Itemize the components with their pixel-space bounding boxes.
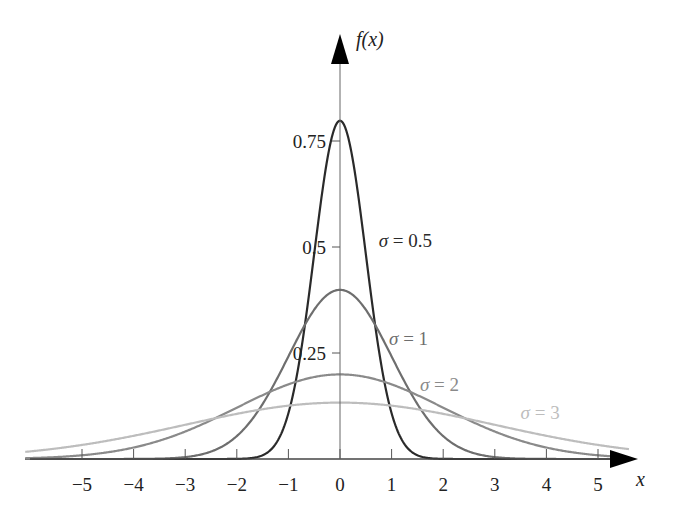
x-tick-label: 1 (387, 474, 397, 495)
x-tick-label: −3 (175, 474, 195, 495)
curve-label: σ = 1 (389, 328, 428, 349)
x-ticks: −5−4−3−2−1012345 (72, 449, 603, 495)
x-tick-label: 0 (335, 474, 345, 495)
y-tick-label: 0.5 (302, 237, 326, 258)
curve-label: σ = 2 (420, 374, 459, 395)
y-tick-label: 0.25 (293, 343, 326, 364)
x-tick-label: −1 (278, 474, 298, 495)
x-tick-label: 2 (438, 474, 448, 495)
x-tick-label: −4 (123, 474, 144, 495)
x-axis-label: x (635, 468, 645, 490)
curve-label: σ = 3 (521, 402, 560, 423)
curve-labels: σ = 0.5σ = 1σ = 2σ = 3 (379, 230, 560, 423)
x-tick-label: 4 (542, 474, 552, 495)
normal-distribution-chart: −5−4−3−2−1012345 0.250.50.75 x f(x) σ = … (0, 0, 680, 522)
x-tick-label: −5 (72, 474, 92, 495)
curve-label: σ = 0.5 (379, 230, 432, 251)
y-tick-label: 0.75 (293, 131, 326, 152)
x-tick-label: −2 (227, 474, 247, 495)
y-axis-arrow-icon (331, 34, 349, 64)
x-axis-arrow-icon (610, 450, 638, 468)
x-tick-label: 5 (593, 474, 603, 495)
x-tick-label: 3 (490, 474, 500, 495)
axes: −5−4−3−2−1012345 0.250.50.75 x f(x) (30, 28, 645, 495)
y-axis-label: f(x) (356, 28, 384, 51)
y-ticks: 0.250.50.75 (293, 131, 340, 364)
